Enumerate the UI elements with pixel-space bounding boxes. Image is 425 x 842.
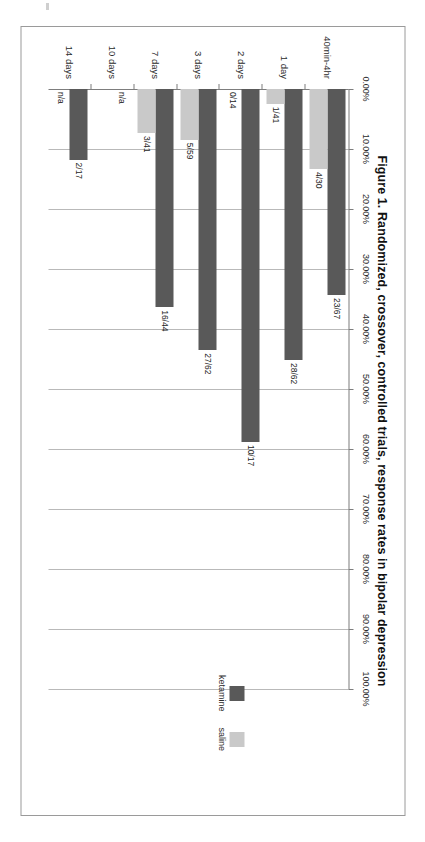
bar-saline bbox=[266, 89, 284, 104]
bar-ketamine bbox=[241, 89, 259, 442]
axis-tick bbox=[348, 569, 353, 570]
bar-value-label: 3/41 bbox=[141, 136, 151, 153]
bar-ketamine bbox=[155, 89, 173, 307]
legend-item-saline: saline bbox=[216, 727, 244, 751]
gridline bbox=[48, 389, 348, 390]
axis-tick bbox=[348, 149, 353, 150]
legend-swatch-ketamine bbox=[229, 686, 244, 701]
category-label: 2 days bbox=[235, 51, 246, 79]
axis-tick bbox=[348, 269, 353, 270]
axis-tick-label: 20.00% bbox=[360, 194, 370, 224]
category-label: 7 days bbox=[150, 51, 161, 79]
bar-ketamine bbox=[327, 89, 345, 295]
bar-value-label: 23/67 bbox=[331, 298, 341, 319]
axis-tick bbox=[348, 389, 353, 390]
axis-tick bbox=[348, 209, 353, 210]
chart-legend: ketamine saline bbox=[216, 675, 244, 751]
bar-value-label: 27/62 bbox=[202, 353, 212, 374]
axis-tick bbox=[348, 329, 353, 330]
category-label: 1 day bbox=[278, 56, 289, 79]
bar-value-label: 10/17 bbox=[245, 445, 255, 466]
bar-value-label: n/a bbox=[116, 92, 126, 104]
axis-tick bbox=[348, 509, 353, 510]
legend-item-ketamine: ketamine bbox=[216, 675, 244, 712]
axis-tick-label: 70.00% bbox=[360, 494, 370, 524]
chart-title: Figure 1. Randomized, crossover, control… bbox=[374, 27, 388, 815]
scan-artifact bbox=[46, 3, 49, 10]
bar-value-label: n/a bbox=[55, 92, 65, 104]
category-separator bbox=[261, 84, 262, 89]
axis-tick bbox=[348, 689, 353, 690]
category-label: 10 days bbox=[107, 46, 118, 79]
bar-value-label: 5/59 bbox=[184, 143, 194, 160]
legend-swatch-saline bbox=[229, 732, 244, 747]
gridline bbox=[48, 689, 348, 690]
axis-tick-label: 60.00% bbox=[360, 434, 370, 464]
axis-tick bbox=[348, 89, 353, 90]
bar-value-label: 28/62 bbox=[288, 363, 298, 384]
bar-ketamine bbox=[284, 89, 302, 360]
bar-value-label: 0/14 bbox=[227, 92, 237, 109]
category-label: 40min-4hr bbox=[321, 36, 332, 79]
gridline bbox=[48, 629, 348, 630]
category-separator bbox=[218, 84, 219, 89]
bar-value-label: 4/30 bbox=[313, 172, 323, 189]
axis-tick-label: 90.00% bbox=[360, 614, 370, 644]
bar-saline bbox=[180, 89, 198, 140]
gridline bbox=[48, 569, 348, 570]
chart-frame: Figure 1. Randomized, crossover, control… bbox=[20, 26, 405, 816]
axis-tick bbox=[348, 449, 353, 450]
category-separator bbox=[176, 84, 177, 89]
bar-saline bbox=[309, 89, 327, 169]
bar-saline bbox=[137, 89, 155, 133]
axis-tick-label: 0.00% bbox=[360, 76, 370, 101]
category-separator bbox=[90, 84, 91, 89]
legend-label-saline: saline bbox=[216, 727, 226, 751]
axis-tick-label: 100.00% bbox=[360, 672, 370, 707]
plot-area: 0.00%10.00%20.00%30.00%40.00%50.00%60.00… bbox=[48, 89, 348, 689]
axis-tick-label: 30.00% bbox=[360, 254, 370, 284]
axis-tick bbox=[348, 629, 353, 630]
bar-value-label: 16/44 bbox=[159, 310, 169, 331]
axis-tick-label: 40.00% bbox=[360, 314, 370, 344]
bar-value-label: 1/41 bbox=[270, 107, 280, 124]
legend-label-ketamine: ketamine bbox=[216, 675, 226, 712]
gridline bbox=[48, 509, 348, 510]
axis-tick-label: 50.00% bbox=[360, 374, 370, 404]
bar-ketamine bbox=[69, 89, 87, 160]
category-label: 3 days bbox=[193, 51, 204, 79]
gridline bbox=[48, 449, 348, 450]
axis-tick-label: 10.00% bbox=[360, 134, 370, 164]
bar-value-label: 2/17 bbox=[73, 163, 83, 180]
category-separator bbox=[304, 84, 305, 89]
figure-rotated-container: Figure 1. Randomized, crossover, control… bbox=[20, 26, 405, 816]
bar-ketamine bbox=[198, 89, 216, 350]
category-label: 14 days bbox=[64, 46, 75, 79]
category-separator bbox=[133, 84, 134, 89]
axis-tick-label: 80.00% bbox=[360, 554, 370, 584]
